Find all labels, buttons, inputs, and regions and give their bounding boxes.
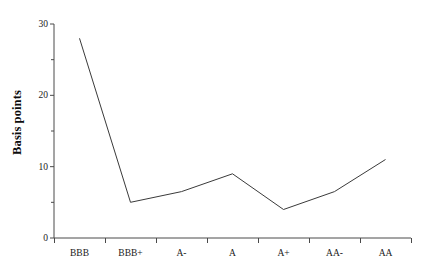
x-axis-tick-label: BBB: [70, 248, 89, 258]
plot-area: [0, 0, 429, 273]
x-axis-tick-label: BBB+: [118, 248, 142, 258]
data-series-line: [80, 38, 386, 209]
axes-group: [54, 24, 411, 238]
x-axis-tick-label: AA-: [326, 248, 343, 258]
x-axis-tick-label: A-: [176, 248, 186, 258]
x-axis-tick-label: AA: [379, 248, 393, 258]
y-axis-ticks: [50, 24, 54, 238]
y-axis-tick-label: 20: [26, 90, 48, 100]
y-axis-tick-label: 0: [26, 233, 48, 243]
y-axis-tick-label: 10: [26, 162, 48, 172]
x-axis-tick-label: A: [229, 248, 236, 258]
x-axis-ticks: [55, 238, 412, 243]
x-axis-tick-label: A+: [277, 248, 289, 258]
line-chart: Basis points 0102030 BBBBBB+A-AA+AA-AA: [0, 0, 429, 273]
y-axis-tick-label: 30: [26, 19, 48, 29]
